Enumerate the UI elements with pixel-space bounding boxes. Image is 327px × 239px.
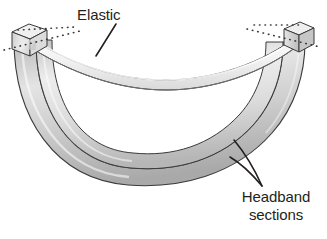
label-headband-line2: sections: [238, 207, 314, 222]
label-headband-sections: Headbandsections: [238, 189, 314, 222]
elastic-leader-line: [96, 24, 116, 56]
label-headband-line1: Headband: [242, 188, 310, 205]
elastic-highlight: [30, 37, 294, 80]
label-elastic: Elastic: [77, 7, 120, 22]
elastic-band: [22, 32, 300, 90]
headband-diagram-figure: Elastic Headbandsections: [0, 0, 327, 239]
end-cap-right: [284, 22, 314, 52]
